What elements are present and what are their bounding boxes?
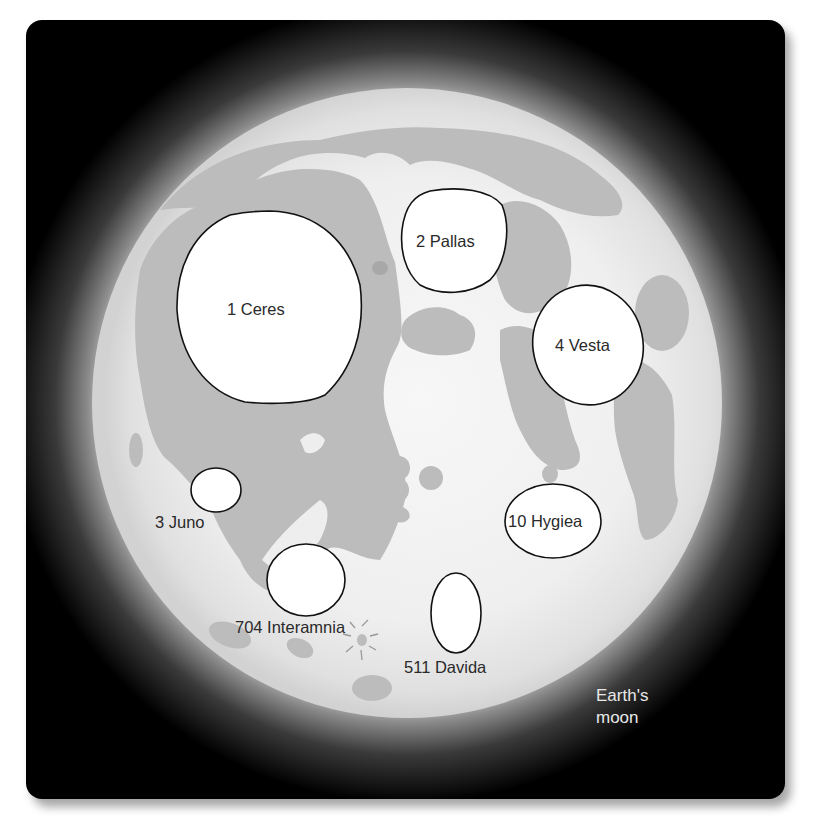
- moon-asteroid-comparison-diagram: 1 Ceres 2 Pallas 3 Juno 4 Vesta 10 Hygie…: [0, 0, 816, 840]
- asteroid-label-interamnia: 704 Interamnia: [235, 618, 346, 636]
- asteroid-label-juno: 3 Juno: [155, 513, 205, 531]
- asteroid-label-vesta: 4 Vesta: [555, 336, 611, 354]
- asteroid-label-ceres: 1 Ceres: [227, 300, 285, 318]
- asteroid-juno-shape: [191, 468, 241, 512]
- asteroid-label-hygiea: 10 Hygiea: [508, 512, 583, 530]
- asteroid-label-pallas: 2 Pallas: [416, 232, 475, 250]
- asteroid-interamnia-shape: [267, 544, 345, 616]
- caption-earths-moon-line1: Earth's: [596, 686, 648, 705]
- caption-earths-moon-line2: moon: [596, 708, 639, 727]
- asteroid-davida-shape: [431, 573, 481, 653]
- asteroid-label-davida: 511 Davida: [404, 658, 487, 676]
